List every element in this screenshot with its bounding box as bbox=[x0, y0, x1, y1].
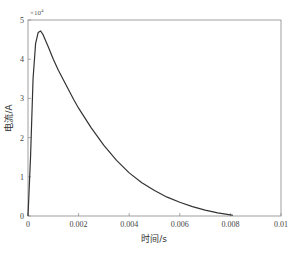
current-time-chart: 00.0020.0040.0060.0080.01 012345 ×104 时间… bbox=[0, 0, 294, 253]
current-curve bbox=[28, 31, 233, 216]
plot-frame bbox=[28, 20, 281, 216]
y-tick-label: 3 bbox=[20, 94, 24, 103]
x-tick-label: 0.01 bbox=[274, 220, 288, 229]
x-tick-label: 0.006 bbox=[171, 220, 189, 229]
y-tick-label: 2 bbox=[20, 134, 24, 143]
x-axis-label: 时间/s bbox=[141, 233, 167, 244]
y-tick-label: 5 bbox=[20, 16, 24, 25]
x-tick-label: 0 bbox=[26, 220, 30, 229]
x-tick-label: 0.002 bbox=[70, 220, 88, 229]
y-tick-label: 0 bbox=[20, 212, 24, 221]
x-axis-ticks: 00.0020.0040.0060.0080.01 bbox=[26, 213, 288, 229]
x-tick-label: 0.008 bbox=[221, 220, 239, 229]
y-axis-label: 电流/A bbox=[3, 104, 14, 132]
x-tick-label: 0.004 bbox=[120, 220, 138, 229]
y-tick-label: 4 bbox=[20, 55, 24, 64]
y-multiplier: ×104 bbox=[30, 8, 44, 17]
y-tick-label: 1 bbox=[20, 173, 24, 182]
